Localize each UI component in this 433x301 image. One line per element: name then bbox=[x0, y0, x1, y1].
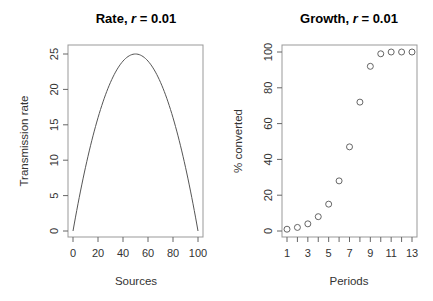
svg-text:20: 20 bbox=[262, 189, 274, 201]
svg-text:20: 20 bbox=[48, 83, 60, 95]
data-point bbox=[305, 221, 311, 227]
data-point bbox=[399, 49, 405, 55]
svg-text:10: 10 bbox=[48, 154, 60, 166]
x-axis-label: Periods bbox=[330, 275, 369, 287]
svg-text:25: 25 bbox=[48, 48, 60, 60]
svg-text:40: 40 bbox=[262, 153, 274, 165]
plot-frame bbox=[282, 45, 417, 237]
svg-text:9: 9 bbox=[367, 247, 373, 259]
svg-text:80: 80 bbox=[262, 82, 274, 94]
figure: Rate, r = 0.010510152025020406080100Sour… bbox=[0, 0, 433, 301]
rate-plot: Rate, r = 0.010510152025020406080100Sour… bbox=[18, 11, 207, 287]
plot-frame bbox=[68, 45, 203, 237]
rate-curve bbox=[73, 54, 198, 231]
data-point bbox=[388, 49, 394, 55]
x-axis-label: Sources bbox=[115, 275, 157, 287]
data-point bbox=[326, 201, 332, 207]
x-axis: 135791113 bbox=[284, 237, 418, 259]
data-point bbox=[315, 214, 321, 220]
svg-text:0: 0 bbox=[70, 247, 76, 259]
svg-text:7: 7 bbox=[346, 247, 352, 259]
y-axis-label: % converted bbox=[232, 109, 244, 173]
svg-text:60: 60 bbox=[262, 117, 274, 129]
svg-text:100: 100 bbox=[189, 247, 207, 259]
svg-text:3: 3 bbox=[305, 247, 311, 259]
svg-text:20: 20 bbox=[92, 247, 104, 259]
svg-text:0: 0 bbox=[48, 228, 60, 234]
svg-text:13: 13 bbox=[406, 247, 418, 259]
svg-text:40: 40 bbox=[117, 247, 129, 259]
svg-text:1: 1 bbox=[284, 247, 290, 259]
data-point bbox=[294, 224, 300, 230]
svg-text:11: 11 bbox=[385, 247, 396, 259]
chart-title: Growth, r = 0.01 bbox=[300, 11, 398, 26]
y-axis-label: Transmission rate bbox=[18, 96, 30, 187]
svg-text:100: 100 bbox=[262, 43, 274, 61]
svg-text:5: 5 bbox=[48, 193, 60, 199]
y-axis: 020406080100 bbox=[262, 43, 282, 234]
data-point bbox=[357, 99, 363, 105]
data-point bbox=[367, 63, 373, 69]
svg-text:0: 0 bbox=[262, 228, 274, 234]
y-axis: 0510152025 bbox=[48, 48, 68, 234]
data-point bbox=[409, 49, 415, 55]
growth-plot: Growth, r = 0.01020406080100135791113Per… bbox=[232, 11, 418, 287]
svg-text:5: 5 bbox=[326, 247, 332, 259]
data-point bbox=[284, 226, 290, 232]
x-axis: 020406080100 bbox=[70, 237, 207, 259]
data-point bbox=[336, 178, 342, 184]
chart-title: Rate, r = 0.01 bbox=[96, 11, 177, 26]
svg-text:80: 80 bbox=[167, 247, 179, 259]
data-point bbox=[347, 144, 353, 150]
svg-text:15: 15 bbox=[48, 119, 60, 131]
svg-text:60: 60 bbox=[142, 247, 154, 259]
data-point bbox=[378, 51, 384, 57]
